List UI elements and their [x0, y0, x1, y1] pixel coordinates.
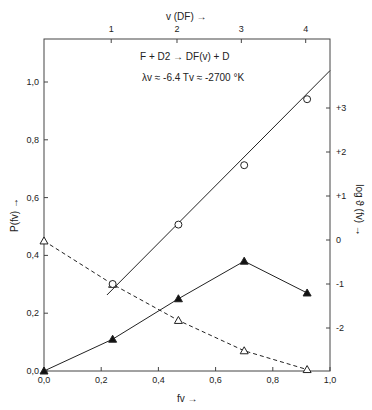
y-tick-label: 0,2 [26, 308, 39, 318]
x-axis-label: fv → [177, 393, 198, 404]
y2-tick-label: +2 [336, 147, 346, 157]
y2-tick-label: +1 [336, 191, 346, 201]
x2-tick-label: 3 [239, 24, 244, 34]
y-tick-label: 0,4 [26, 250, 39, 260]
x-tick-label: 0,8 [267, 375, 280, 385]
x-tick-label: 1,0 [324, 375, 337, 385]
y2-tick-label: +3 [336, 103, 346, 113]
x2-axis-label: v (DF) → [166, 11, 207, 22]
x2-tick-label: 1 [109, 24, 114, 34]
reaction-annotation: F + D2 → DF(v) + D [140, 51, 229, 62]
y2-axis-label: log ϑ (fv) → [354, 184, 365, 236]
y-tick-label: 0,0 [26, 366, 39, 376]
x-tick-label: 0,0 [38, 375, 51, 385]
y-tick-label: 0,6 [26, 193, 39, 203]
y-tick-label: 0,8 [26, 135, 39, 145]
x-tick-label: 0,4 [152, 375, 165, 385]
y2-tick-label: -1 [336, 279, 344, 289]
y-tick-label: 1,0 [26, 77, 39, 87]
y-axis-label: P(fv) → [9, 198, 20, 232]
x2-tick-label: 4 [303, 24, 308, 34]
x2-tick-label: 2 [174, 24, 179, 34]
data-series [40, 71, 330, 374]
y2-tick-label: -2 [336, 323, 344, 333]
chart: 0,00,20,40,60,81,00,00,20,40,60,81,0-2-1… [0, 0, 372, 410]
parameters-annotation: λv ≈ -6.4 Tv ≈ -2700 °K [142, 72, 244, 83]
plot-frame [44, 39, 330, 371]
y2-tick-label: 0 [336, 235, 341, 245]
x-tick-label: 0,2 [95, 375, 108, 385]
x-tick-label: 0,6 [209, 375, 222, 385]
